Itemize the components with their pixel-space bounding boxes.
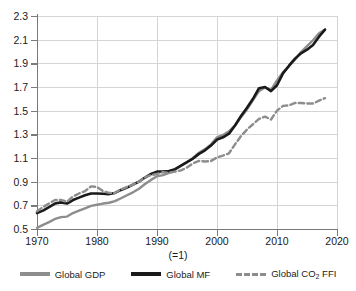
legend-swatch-global-gdp (20, 272, 50, 275)
chart-legend: Global GDP Global MF Global CO2 FFI (0, 268, 356, 280)
series-line-global-co2-ffi (37, 98, 325, 211)
series-plot (0, 0, 356, 291)
legend-swatch-global-co2-ffi (236, 273, 266, 276)
legend-item-global-co2-ffi: Global CO2 FFI (236, 268, 336, 280)
legend-label-global-mf: Global MF (166, 269, 210, 280)
legend-item-global-mf: Global MF (131, 269, 210, 280)
legend-swatch-global-mf (131, 272, 161, 276)
series-line-global-mf (37, 30, 325, 213)
legend-label-global-co2-ffi: Global CO2 FFI (271, 268, 336, 280)
x-axis-note: (=1) (0, 249, 356, 261)
line-chart: 0.50.70.91.11.31.51.71.92.12.3 197019801… (0, 0, 356, 291)
legend-label-global-gdp: Global GDP (55, 269, 106, 280)
legend-item-global-gdp: Global GDP (20, 269, 106, 280)
